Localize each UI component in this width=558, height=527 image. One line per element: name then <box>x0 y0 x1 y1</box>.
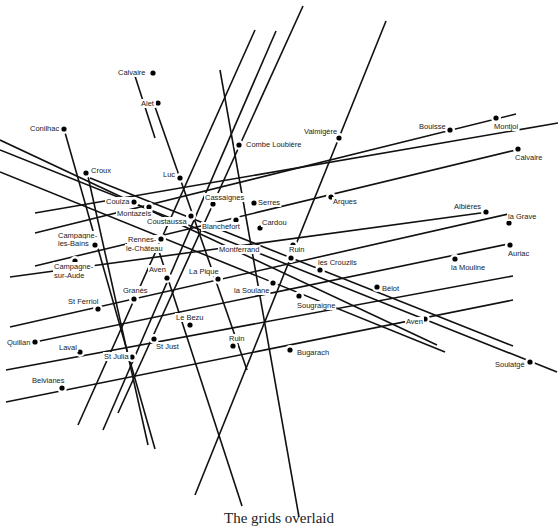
location-label: Blanchefort <box>202 222 241 231</box>
location-label: Calvaire <box>515 153 543 162</box>
location-dot-icon <box>236 142 241 147</box>
location-label: Quillan <box>7 338 30 347</box>
location-label: Albières <box>454 202 481 211</box>
location-dot-icon <box>270 280 275 285</box>
location-label: Arques <box>333 197 357 206</box>
location-dot-icon <box>155 100 160 105</box>
location-label: la Grave <box>508 212 536 221</box>
location-label: St Ferriol <box>68 297 99 306</box>
location-dot-icon <box>210 201 215 206</box>
location-dot-icon <box>61 126 66 131</box>
location-label: Cassaignes <box>205 193 244 202</box>
location-dot-icon <box>177 175 182 180</box>
location-dot-icon <box>131 199 136 204</box>
location-label: Conilhac <box>30 124 59 133</box>
location-dot-icon <box>230 343 235 348</box>
location-dot-icon <box>483 209 488 214</box>
location-dot-icon <box>515 146 520 151</box>
location-dot-icon <box>59 385 64 390</box>
location-dot-icon <box>95 306 100 311</box>
location-label: le-Château <box>126 244 163 253</box>
location-dot-icon <box>296 293 301 298</box>
location-label: Croux <box>91 166 111 175</box>
location-dot-icon <box>83 170 88 175</box>
location-label: Laval <box>59 343 77 352</box>
location-dot-icon <box>317 267 322 272</box>
location-label: Le Bezu <box>176 313 204 322</box>
location-label: Couiza <box>106 197 130 206</box>
location-label: Serres <box>258 198 280 207</box>
location-dot-icon <box>447 127 452 132</box>
location-label: Rennes- <box>128 235 157 244</box>
location-dot-icon <box>527 359 532 364</box>
location-dot-icon <box>452 256 457 261</box>
location-label: Sougraigne <box>297 301 335 310</box>
location-label: les-Bains <box>58 239 89 248</box>
alignment-line <box>103 31 276 430</box>
location-label: Soulatgé <box>495 360 525 369</box>
location-labels: CalvaireAletConilhacCombe LoubièreValmig… <box>6 68 544 385</box>
location-dot-icon <box>158 236 163 241</box>
location-dot-icon <box>188 213 193 218</box>
location-dot-icon <box>287 347 292 352</box>
location-label: la Mouline <box>451 263 485 272</box>
location-label: Calvaire <box>118 68 146 77</box>
location-dot-icon <box>288 255 293 260</box>
location-label: Bugarach <box>297 348 329 357</box>
location-label: Valmigère <box>304 127 337 136</box>
location-label: Alet <box>141 99 155 108</box>
location-dot-icon <box>32 339 37 344</box>
location-label: Luc <box>163 170 175 179</box>
location-dot-icon <box>493 115 498 120</box>
location-label: Campagne- <box>54 262 94 271</box>
location-label: Aven <box>149 265 166 274</box>
location-points <box>30 68 535 393</box>
location-label: Auriac <box>508 249 530 258</box>
location-label: La Pique <box>189 267 219 276</box>
location-dot-icon <box>506 220 511 225</box>
location-dot-icon <box>187 322 192 327</box>
location-label: Bouisse <box>419 122 446 131</box>
location-dot-icon <box>336 135 341 140</box>
alignment-line <box>0 150 557 372</box>
location-label: les Crouzils <box>318 258 357 267</box>
location-label: Belvianes <box>32 376 65 385</box>
location-label: Aven <box>406 317 423 326</box>
location-label: Combe Loubière <box>246 140 301 149</box>
location-label: Montjoi <box>494 122 519 131</box>
location-label: Coustaussa <box>147 217 187 226</box>
location-dot-icon <box>92 242 97 247</box>
location-label: Cardou <box>262 218 287 227</box>
location-label: St Just <box>156 342 180 351</box>
location-dot-icon <box>150 70 155 75</box>
location-label: sur-Aude <box>54 271 84 280</box>
location-label: St Julia <box>104 352 129 361</box>
location-label: Bélot <box>382 284 400 293</box>
location-label: Ruin <box>229 334 244 343</box>
location-dot-icon <box>251 200 256 205</box>
location-label: Granès <box>123 286 148 295</box>
location-dot-icon <box>507 242 512 247</box>
location-label: Montferrand <box>219 245 259 254</box>
location-dot-icon <box>164 275 169 280</box>
location-dot-icon <box>215 276 220 281</box>
location-dot-icon <box>151 336 156 341</box>
grids-overlay-diagram: CalvaireAletConilhacCombe LoubièreValmig… <box>0 0 558 527</box>
location-dot-icon <box>131 296 136 301</box>
location-label: la Soulane <box>234 286 269 295</box>
figure-caption: The grids overlaid <box>0 510 558 527</box>
location-label: Ruin <box>289 245 304 254</box>
location-dot-icon <box>374 284 379 289</box>
